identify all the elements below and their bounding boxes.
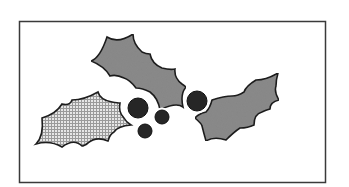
berry-1	[128, 98, 148, 118]
berry-3	[138, 124, 152, 138]
berry-4	[187, 91, 207, 111]
holly-diagram	[0, 0, 349, 187]
berry-2	[155, 110, 169, 124]
